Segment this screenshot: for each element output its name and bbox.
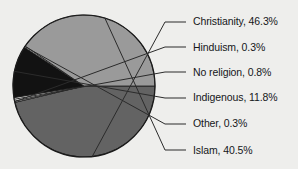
pie-label-christianity-text: Christianity, 46.3%: [193, 15, 278, 27]
pie-label-islam[interactable]: Islam, 40.5%: [193, 145, 253, 156]
pie-label-indigenous[interactable]: Indigenous, 11.8%: [193, 92, 278, 103]
pie-chart-figure: Christianity, 46.3% Hinduism, 0.3% No re…: [0, 0, 298, 169]
pie-label-hinduism-text: Hinduism, 0.3%: [193, 41, 265, 53]
pie-label-christianity[interactable]: Christianity, 46.3%: [193, 16, 278, 27]
pie-label-no-religion-text: No religion, 0.8%: [193, 66, 271, 78]
pie-label-hinduism[interactable]: Hinduism, 0.3%: [193, 42, 265, 53]
pie-slices-group: [13, 15, 155, 157]
pie-label-islam-text: Islam, 40.5%: [193, 144, 253, 156]
pie-label-no-religion[interactable]: No religion, 0.8%: [193, 67, 271, 78]
pie-label-other-text: Other, 0.3%: [193, 117, 247, 129]
pie-label-other[interactable]: Other, 0.3%: [193, 118, 247, 129]
pie-label-indigenous-text: Indigenous, 11.8%: [193, 91, 278, 103]
